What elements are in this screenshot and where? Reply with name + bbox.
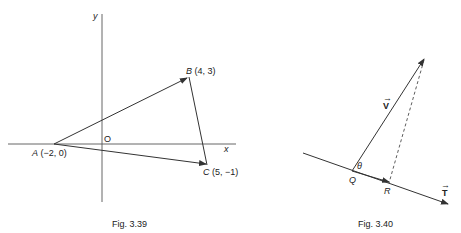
origin-label: O bbox=[104, 134, 111, 144]
diagram-canvas: y x O A (−2, 0) B (4, 3) C (5, −1) Fig. … bbox=[0, 0, 461, 233]
point-a-label: A (−2, 0) bbox=[31, 148, 67, 158]
caption-fig-3-39: Fig. 3.39 bbox=[112, 219, 147, 229]
vector-qr-arrow bbox=[352, 171, 389, 182]
point-q-label: Q bbox=[349, 175, 356, 185]
point-b-label: B (4, 3) bbox=[186, 66, 216, 76]
x-axis-label: x bbox=[223, 144, 229, 154]
vector-v bbox=[352, 59, 424, 171]
vector-t-arrow-mark: → bbox=[441, 180, 450, 190]
point-c-label: C (5, −1) bbox=[203, 167, 238, 177]
segment-bc bbox=[189, 77, 207, 165]
figure-3-40: V → θ Q R T → Fig. 3.40 bbox=[303, 59, 450, 229]
angle-theta-label: θ bbox=[357, 161, 362, 171]
caption-fig-3-40: Fig. 3.40 bbox=[358, 219, 393, 229]
y-axis-label: y bbox=[92, 11, 98, 21]
point-r-label: R bbox=[384, 186, 391, 196]
vector-v-arrow-mark: → bbox=[383, 93, 392, 103]
figure-3-39: y x O A (−2, 0) B (4, 3) C (5, −1) Fig. … bbox=[8, 11, 238, 229]
projection-dashed bbox=[389, 60, 424, 183]
vector-ac bbox=[54, 144, 206, 164]
vector-ab bbox=[54, 78, 187, 144]
